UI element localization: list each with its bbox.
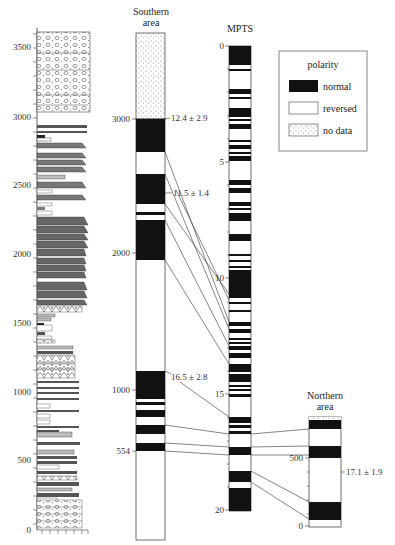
northern-tick-500: 500 bbox=[290, 453, 304, 463]
mpts-tick-15: 15 bbox=[215, 389, 225, 399]
southern-title-2: area bbox=[143, 17, 160, 28]
legend-normal-label: normal bbox=[323, 81, 352, 92]
southern-tick-2000: 2000 bbox=[112, 248, 131, 258]
lith-tick-1500: 1500 bbox=[13, 318, 32, 328]
southern-age-3: 16.5 ± 2.8 bbox=[171, 372, 208, 382]
mpts-title: MPTS bbox=[227, 23, 253, 34]
legend-normal-swatch bbox=[289, 80, 318, 92]
lith-tick-0: 0 bbox=[27, 525, 32, 535]
lith-tick-500: 500 bbox=[18, 455, 32, 465]
southern-tick-554: 554 bbox=[117, 446, 131, 456]
legend-title: polarity bbox=[307, 59, 338, 70]
southern-age-2: 11.5 ± 1.4 bbox=[173, 188, 210, 198]
southern-nodata bbox=[136, 33, 165, 119]
southern-tick-1000: 1000 bbox=[112, 385, 131, 395]
lith-tick-3000: 3000 bbox=[13, 112, 32, 122]
legend-reversed-label: reversed bbox=[323, 103, 357, 114]
legend-reversed-swatch bbox=[289, 102, 318, 114]
magnetostratigraphy-diagram: 3500 3000 2500 2000 1500 1000 500 0 bbox=[0, 0, 395, 545]
mpts-tick-20: 20 bbox=[215, 505, 225, 515]
mpts-tick-0: 0 bbox=[220, 41, 225, 51]
southern-title-1: Southern bbox=[133, 6, 169, 17]
polarity-legend: polarity normal reversed no data bbox=[279, 51, 367, 151]
northern-area-column: Northern area 500 0 17.1 ± 1.9 bbox=[290, 390, 383, 531]
southern-age-1: 12.4 ± 2.9 bbox=[171, 113, 208, 123]
southern-area-column: Southern area 3000 2000 1000 554 12.4 ± … bbox=[112, 6, 210, 540]
lith-tick-2000: 2000 bbox=[13, 249, 32, 259]
northern-title-2: area bbox=[317, 401, 334, 412]
lith-tick-2500: 2500 bbox=[13, 180, 32, 190]
lithology-column: 3500 3000 2500 2000 1500 1000 500 0 bbox=[13, 28, 90, 535]
mpts-tick-5: 5 bbox=[220, 157, 225, 167]
legend-nodata-label: no data bbox=[323, 125, 353, 136]
northern-tick-0: 0 bbox=[299, 521, 304, 531]
southern-tick-3000: 3000 bbox=[112, 114, 131, 124]
legend-nodata-swatch bbox=[289, 124, 318, 136]
mpts-column: MPTS bbox=[215, 23, 253, 515]
northern-age: 17.1 ± 1.9 bbox=[346, 467, 383, 477]
northern-title-1: Northern bbox=[307, 390, 343, 401]
lith-tick-3500: 3500 bbox=[13, 42, 32, 52]
lith-tick-1000: 1000 bbox=[13, 387, 32, 397]
